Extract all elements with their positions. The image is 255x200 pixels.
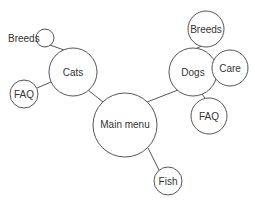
node-label: Breeds [190,24,222,35]
node-dogs-breeds[interactable]: Breeds [188,11,224,47]
node-label: Breeds [8,33,40,44]
edge-main-cats [88,90,103,102]
node-cats[interactable]: Cats [49,48,97,96]
node-label: FAQ [14,89,34,100]
node-cats-faq[interactable]: FAQ [10,80,38,108]
node-dogs[interactable]: Dogs [169,48,217,96]
node-dogs-care[interactable]: Care [212,50,248,86]
sitemap-diagram: Main menu Cats Breeds FAQ Dogs Breeds Ca… [0,0,255,200]
edge-main-dogs [147,90,178,102]
node-main-menu[interactable]: Main menu [93,93,157,157]
node-dogs-faq[interactable]: FAQ [191,98,227,134]
node-cats-breeds[interactable]: Breeds [8,29,54,47]
node-fish[interactable]: Fish [154,167,182,195]
node-label: Cats [63,67,84,78]
edge-cats-breeds [50,45,64,50]
node-label: FAQ [199,111,219,122]
edge-cats-faq [37,82,51,88]
edge-main-fish [148,148,159,170]
node-label: Dogs [181,67,204,78]
node-label: Fish [159,176,178,187]
node-label: Main menu [100,119,149,130]
node-label: Care [219,63,241,74]
